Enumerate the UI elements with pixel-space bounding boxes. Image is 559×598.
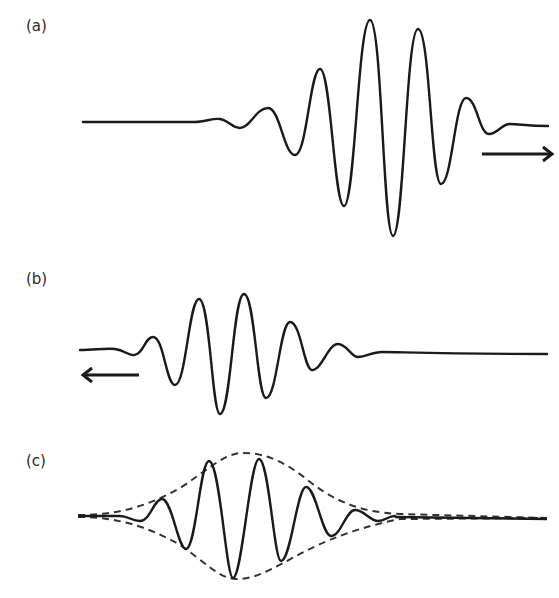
wave-packet-diagram	[0, 0, 559, 598]
panel-a-wave	[83, 20, 548, 236]
panel-c-envelope-upper	[78, 453, 547, 518]
left-arrow-icon	[83, 368, 139, 382]
panel-c-wave	[78, 459, 547, 578]
right-arrow-icon	[482, 147, 552, 161]
panel-c-envelope-lower	[78, 517, 547, 579]
panel-b-wave	[80, 294, 547, 414]
